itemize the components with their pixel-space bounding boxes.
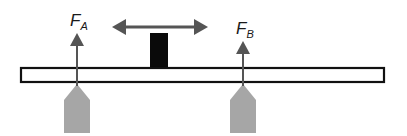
beam-diagram: FA FB [0,0,407,136]
support-a [64,84,90,133]
beam [21,68,384,82]
support-b [230,84,256,133]
movable-mass [150,33,168,68]
force-b-label: FB [236,19,254,40]
force-a-label: FA [70,11,88,32]
double-headed-motion-arrow-icon [112,19,208,35]
